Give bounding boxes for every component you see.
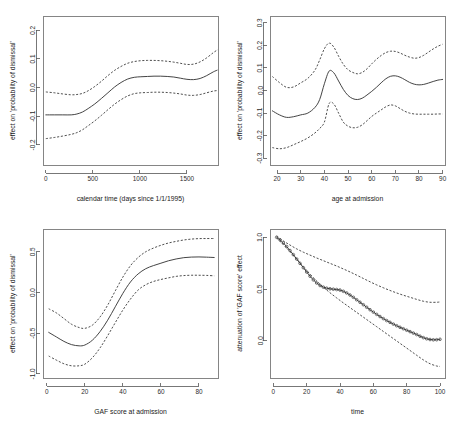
- x-tick-label: 40: [321, 175, 329, 182]
- chart-panel-age-at-admission: 0.30.20.10.0-0.1-0.2-0.32030405060708090…: [227, 0, 454, 212]
- y-tick-label: 0.0: [257, 336, 264, 345]
- x-tick-label: 20: [81, 388, 89, 395]
- y-tick-label: 0.5: [30, 247, 37, 256]
- y-tick-label: 0.3: [257, 18, 264, 27]
- plot-box: [43, 229, 218, 378]
- x-tick-label: 60: [368, 175, 376, 182]
- x-tick-label: 60: [370, 388, 378, 395]
- y-tick-label: 0.0: [30, 288, 37, 297]
- y-tick-label: 0.2: [257, 40, 264, 49]
- x-tick-label: 90: [439, 175, 447, 182]
- series-confidence-band: [277, 238, 440, 366]
- x-axis-title: time: [351, 408, 364, 415]
- series-confidence-band: [277, 236, 440, 302]
- x-tick-label: 30: [297, 175, 305, 182]
- plot-box: [270, 229, 445, 378]
- y-tick-label: 0.1: [30, 54, 37, 63]
- x-tick-label: 0: [44, 175, 48, 182]
- chart-svg-attenuation-over-time: 1.00.50.0020406080100timeattenuation of …: [227, 213, 454, 425]
- x-tick-label: 80: [195, 388, 203, 395]
- x-tick-label: 1500: [180, 175, 195, 182]
- y-tick-label: 0.2: [30, 25, 37, 34]
- y-tick-label: 0.0: [257, 86, 264, 95]
- y-axis-title: effect on 'probability of dismissal': [9, 254, 17, 353]
- x-tick-label: 0: [45, 388, 49, 395]
- x-tick-label: 50: [344, 175, 352, 182]
- series-confidence-band: [49, 275, 214, 366]
- x-tick-label: 60: [157, 388, 165, 395]
- chart-svg-gaf-score-at-admission: 0.50.0-0.5-1.0020406080GAF score at admi…: [0, 213, 227, 425]
- x-tick-label: 40: [119, 388, 127, 395]
- x-axis-title: GAF score at admission: [94, 408, 167, 415]
- y-tick-label: 0.0: [30, 83, 37, 92]
- y-axis-title: attenuation of 'GAF score' effect: [236, 255, 243, 352]
- x-axis-title: age at admission: [332, 195, 384, 203]
- series-fit-line: [272, 70, 442, 117]
- y-tick-label: -0.5: [30, 327, 37, 338]
- plot-box: [43, 16, 218, 165]
- y-tick-label: 0.1: [257, 63, 264, 72]
- x-tick-label: 40: [336, 388, 344, 395]
- y-axis-title: effect on 'probability of dismissal': [9, 41, 17, 140]
- series-fit-line: [277, 237, 440, 340]
- series-fit-line: [49, 257, 214, 346]
- x-tick-label: 20: [274, 175, 282, 182]
- x-tick-label: 100: [435, 388, 446, 395]
- x-tick-label: 80: [403, 388, 411, 395]
- y-tick-label: -1.0: [30, 368, 37, 379]
- chart-panel-gaf-score: 0.50.0-0.5-1.0020406080GAF score at admi…: [0, 213, 227, 425]
- x-tick-label: 0: [272, 388, 276, 395]
- figure-panel-grid: 0.20.10.0-0.1-0.2050010001500calendar ti…: [0, 0, 454, 425]
- y-axis-title: effect on 'probability of dismissal': [236, 41, 244, 140]
- y-tick-label: -0.2: [30, 139, 37, 150]
- y-tick-label: 0.5: [257, 284, 264, 293]
- x-tick-label: 20: [303, 388, 311, 395]
- series-confidence-band: [272, 43, 442, 88]
- y-tick-label: -0.2: [257, 130, 264, 141]
- x-tick-label: 70: [392, 175, 400, 182]
- series-confidence-band: [272, 102, 442, 149]
- x-tick-label: 500: [88, 175, 99, 182]
- x-tick-label: 1000: [133, 175, 148, 182]
- y-tick-label: -0.1: [257, 107, 264, 118]
- chart-panel-attenuation: 1.00.50.0020406080100timeattenuation of …: [227, 213, 454, 425]
- series-confidence-band: [49, 239, 214, 329]
- series-fit-line: [46, 70, 218, 115]
- series-confidence-band: [46, 50, 218, 95]
- chart-svg-age-at-admission: 0.30.20.10.0-0.1-0.2-0.32030405060708090…: [227, 0, 454, 212]
- y-tick-label: -0.3: [257, 152, 264, 163]
- chart-svg-calendar-time: 0.20.10.0-0.1-0.2050010001500calendar ti…: [0, 0, 227, 212]
- plot-box: [270, 16, 445, 165]
- x-tick-label: 80: [415, 175, 423, 182]
- x-axis-title: calendar time (days since 1/1/1995): [77, 195, 185, 203]
- y-tick-label: -0.1: [30, 110, 37, 121]
- chart-panel-calendar-time: 0.20.10.0-0.1-0.2050010001500calendar ti…: [0, 0, 227, 212]
- y-tick-label: 1.0: [257, 232, 264, 241]
